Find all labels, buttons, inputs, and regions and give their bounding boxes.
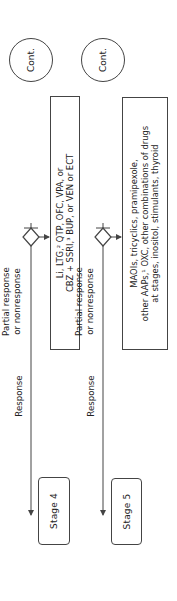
stage-4-response-label: Response [14, 361, 25, 431]
stage-5-continue-circle: Cont. [81, 38, 125, 82]
stage-4-box: Stage 4 [38, 477, 70, 545]
decision-diamond-icon [23, 228, 39, 246]
decision-diamond-icon [95, 228, 111, 246]
stage-4-label: Stage 4 [49, 493, 59, 529]
stage-4-continue-circle: Cont. [9, 38, 53, 82]
flowchart-canvas: Stage 4 Partial response or nonresponse … [0, 0, 177, 601]
stage-5-partial-response-label: Partial response or nonresponse [74, 254, 96, 349]
stage-5-response-label: Response [86, 361, 97, 431]
stage-5-box: Stage 5 [111, 478, 142, 545]
stage-5-label: Stage 5 [122, 494, 132, 530]
stage-5-treatment-box: MAOIs, tricyclics, pramipexole, other AA… [122, 97, 168, 350]
stage-4-partial-response-label: Partial response or nonresponse [1, 254, 23, 349]
